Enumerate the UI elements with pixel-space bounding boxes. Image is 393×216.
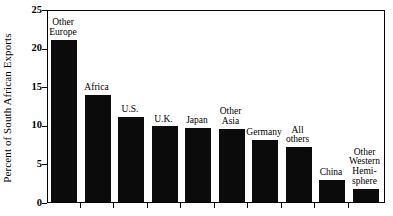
y-tick-label-15: 15 <box>22 82 42 92</box>
x-tick-mark <box>314 203 315 208</box>
bar-label: Other Europe <box>41 18 85 38</box>
bar-label: Other Asia <box>209 107 253 127</box>
bar <box>51 40 77 202</box>
bar <box>319 180 345 202</box>
bar <box>286 147 312 202</box>
bar <box>252 140 278 202</box>
bar-chart: Percent of South African Exports 0510152… <box>0 0 393 216</box>
x-tick-mark <box>113 203 114 208</box>
x-tick-mark <box>147 203 148 208</box>
bar-label: All others <box>276 126 320 146</box>
bar <box>85 95 111 202</box>
x-tick-mark <box>80 203 81 208</box>
bar <box>353 189 379 202</box>
x-tick-mark <box>281 203 282 208</box>
y-tick-label-0: 0 <box>22 198 42 208</box>
y-tick-label-5: 5 <box>22 159 42 169</box>
x-tick-mark <box>180 203 181 208</box>
bar <box>152 126 178 202</box>
bar-label: Africa <box>75 83 119 93</box>
y-axis-title: Percent of South African Exports <box>0 0 14 216</box>
x-tick-mark <box>247 203 248 208</box>
bar <box>118 117 144 202</box>
bar <box>185 128 211 202</box>
x-tick-mark <box>348 203 349 208</box>
y-axis-tick-labels: 0510152025 <box>14 0 42 216</box>
bar <box>219 129 245 202</box>
bar-label: Other Western Hemi- sphere <box>343 148 387 187</box>
y-tick-label-25: 25 <box>22 5 42 15</box>
y-tick-label-10: 10 <box>22 120 42 130</box>
x-tick-mark <box>214 203 215 208</box>
y-tick-label-20: 20 <box>22 43 42 53</box>
y-tick-mark-0 <box>42 203 47 204</box>
